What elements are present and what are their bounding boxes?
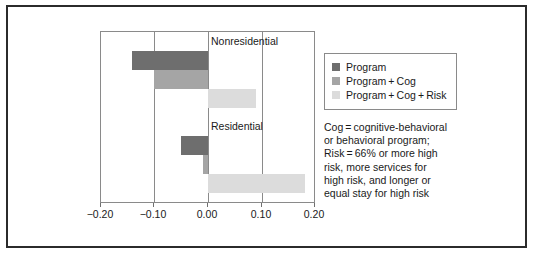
- note-line-3: risk, more services for: [324, 161, 474, 174]
- bar-nonresidential-program-cog: [154, 70, 208, 89]
- x-tick-label-3: 0.10: [251, 208, 271, 220]
- tick-mark-1: [153, 203, 154, 207]
- legend-label-program-cog: Program + Cog: [346, 75, 416, 87]
- legend-item-program: Program: [332, 61, 447, 73]
- legend-swatch-icon-program-cog-risk: [332, 91, 340, 99]
- plot-area: Nonresidential Residential: [100, 31, 315, 203]
- legend-swatch-icon-program: [332, 63, 340, 71]
- bar-residential-program-cog-risk: [208, 174, 305, 193]
- note-line-2: Risk = 66% or more high: [324, 147, 474, 160]
- legend-item-program-cog: Program + Cog: [332, 75, 447, 87]
- group-label-nonresidential: Nonresidential: [211, 35, 278, 47]
- note-line-1: or behavioral program;: [324, 134, 474, 147]
- bar-residential-program: [181, 136, 208, 155]
- x-tick-label-1: −0.10: [140, 208, 167, 220]
- tick-mark-0: [100, 203, 101, 207]
- x-tick-label-0: −0.20: [87, 208, 114, 220]
- group-label-residential: Residential: [211, 120, 263, 132]
- legend-item-program-cog-risk: Program + Cog + Risk: [332, 89, 447, 101]
- x-tick-label-2: 0.00: [197, 208, 217, 220]
- chart-figure: Nonresidential Residential −0.20 −0.10 0…: [0, 0, 535, 255]
- tick-mark-2: [207, 203, 208, 207]
- chart-legend: Program Program + Cog Program + Cog + Ri…: [324, 53, 457, 110]
- x-axis: −0.20 −0.10 0.00 0.10 0.20: [100, 203, 315, 221]
- bar-nonresidential-program: [132, 51, 208, 70]
- note-line-5: equal stay for high risk: [324, 187, 474, 200]
- legend-label-program-cog-risk: Program + Cog + Risk: [346, 89, 447, 101]
- legend-swatch-icon-program-cog: [332, 77, 340, 85]
- chart-note: Cog = cognitive-behavioral or behavioral…: [324, 121, 474, 200]
- tick-mark-4: [314, 203, 315, 207]
- tick-mark-3: [261, 203, 262, 207]
- legend-label-program: Program: [346, 61, 386, 73]
- x-tick-label-4: 0.20: [304, 208, 324, 220]
- note-line-0: Cog = cognitive-behavioral: [324, 121, 474, 134]
- note-line-4: high risk, and longer or: [324, 174, 474, 187]
- bar-residential-program-cog: [203, 155, 208, 174]
- bar-nonresidential-program-cog-risk: [208, 89, 256, 108]
